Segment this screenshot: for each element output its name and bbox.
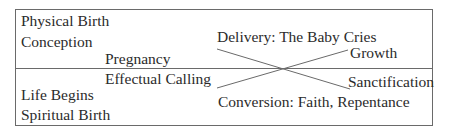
birth-comparison-diagram: Physical Birth Conception Pregnancy Deli… [0,0,449,137]
sanctification-label: Sanctification [348,73,434,91]
growth-label: Growth [350,44,397,62]
physical-birth-title: Physical Birth [21,12,109,30]
life-begins-label: Life Begins [21,86,94,104]
pregnancy-label: Pregnancy [105,50,170,68]
conversion-label: Conversion: Faith, Repentance [218,93,410,111]
spiritual-birth-title: Spiritual Birth [21,106,110,124]
effectual-calling-label: Effectual Calling [105,70,211,88]
conception-label: Conception [21,33,92,51]
